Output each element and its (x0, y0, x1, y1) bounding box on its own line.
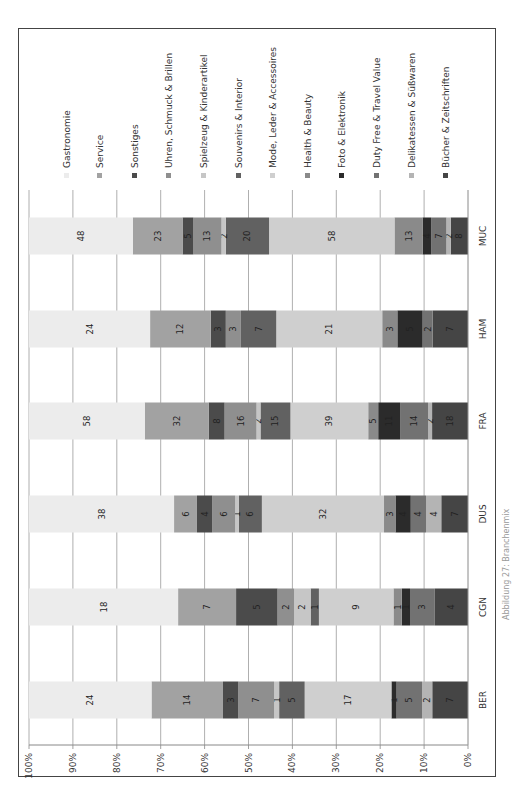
data-label: 7 (254, 326, 264, 331)
legend-swatch (270, 173, 275, 178)
gridlines (29, 190, 468, 745)
data-label: 17 (343, 695, 353, 706)
data-label: 13 (202, 231, 212, 242)
data-label: 24 (85, 324, 95, 335)
data-label: 18 (99, 602, 109, 613)
data-label: 9 (351, 604, 361, 609)
category-label: MUC (478, 226, 488, 247)
legend-swatch (236, 173, 241, 178)
data-label: 1 (393, 604, 403, 609)
data-label: 23 (153, 231, 163, 242)
legend-item: Service (95, 134, 105, 178)
y-tick-label: 30% (331, 753, 341, 773)
figure-caption: Abbildung 27: Branchenmix (502, 508, 511, 620)
legend-label: Health & Beauty (303, 93, 313, 168)
category-axis: BERCGNDUSFRAHAMMUC (478, 226, 488, 709)
data-label: 7 (445, 326, 455, 331)
data-label: 3 (385, 511, 395, 516)
legend-label: Sonstiges (130, 124, 140, 168)
legend-swatch (443, 173, 448, 178)
data-label: 4 (429, 511, 439, 516)
y-tick-label: 40% (287, 753, 297, 773)
legend-swatch (97, 173, 102, 178)
data-label: 7 (445, 697, 455, 702)
data-label: 4 (200, 511, 210, 516)
data-label: 12 (175, 324, 185, 335)
data-label: 6 (245, 511, 255, 516)
data-label: 20 (242, 231, 252, 242)
data-label: 8 (212, 418, 222, 423)
stacked-bar-chart: 7251175173142443119122571874443326164638… (0, 0, 512, 785)
legend-label: Souvenirs & Interior (234, 78, 244, 168)
data-label: 58 (327, 231, 337, 242)
category-label: FRA (478, 412, 488, 430)
data-label: 7 (251, 697, 261, 702)
legend-item: Health & Beauty (303, 93, 313, 178)
legend-label: Duty Free & Travel Value (372, 57, 382, 168)
legend-label: Mode, Leder & Accessoires (268, 47, 278, 168)
legend-label: Bücher & Zeitschriften (441, 66, 451, 168)
legend-swatch (374, 173, 379, 178)
data-label: 3 (417, 604, 427, 609)
legend-item: Gastronomie (62, 110, 72, 178)
y-tick-label: 60% (200, 753, 210, 773)
legend-swatch (409, 173, 414, 178)
data-label: 4 (446, 604, 456, 609)
data-label: 3 (385, 326, 395, 331)
y-tick-label: 20% (375, 753, 385, 773)
y-tick-label: 70% (156, 753, 166, 773)
data-label: 16 (236, 416, 246, 427)
data-label: 4 (413, 511, 423, 516)
y-tick-label: 50% (244, 753, 254, 773)
y-tick-label: 80% (112, 753, 122, 773)
data-label: 58 (82, 416, 92, 427)
category-label: HAM (478, 319, 488, 340)
data-label: 5 (287, 697, 297, 702)
legend-label: Uhren, Schmuck & Brillen (164, 53, 174, 168)
legend-item: Duty Free & Travel Value (372, 57, 382, 178)
data-label: 2 (422, 697, 432, 702)
data-label: 7 (202, 604, 212, 609)
data-label: 3 (213, 326, 223, 331)
legend-item: Mode, Leder & Accessoires (268, 47, 278, 178)
legend-label: Foto & Elektronik (337, 90, 347, 168)
data-label: 2 (281, 604, 291, 609)
legend-swatch (166, 173, 171, 178)
legend-swatch (201, 173, 206, 178)
data-label: 32 (172, 416, 182, 427)
legend-item: Souvenirs & Interior (234, 78, 244, 178)
y-tick-label: 90% (68, 753, 78, 773)
legend-label: Gastronomie (62, 110, 72, 168)
data-label: 4 (422, 233, 432, 238)
data-label: 38 (97, 509, 107, 520)
data-label: 8 (454, 233, 464, 238)
category-label: BER (478, 691, 488, 709)
data-label: 6 (181, 511, 191, 516)
legend-item: Uhren, Schmuck & Brillen (164, 53, 174, 178)
data-label: 5 (404, 697, 414, 702)
data-label: 1 (310, 604, 320, 609)
data-label: 3 (226, 697, 236, 702)
legend-label: Service (95, 134, 105, 168)
data-label: 3 (228, 326, 238, 331)
legend-item: Foto & Elektronik (337, 90, 347, 178)
legend: GastronomieServiceSonstigesUhren, Schmuc… (62, 47, 451, 178)
legend-item: Delikatessen & Süßwaren (407, 53, 417, 178)
data-label: 32 (318, 509, 328, 520)
legend-item: Spielzeug & Kinderartikel (199, 54, 209, 178)
data-label: 2 (297, 604, 307, 609)
legend-label: Delikatessen & Süßwaren (407, 53, 417, 168)
data-label: 15 (270, 416, 280, 427)
data-label: 14 (409, 416, 419, 427)
data-label: 5 (252, 604, 262, 609)
data-label: 11 (384, 416, 394, 427)
data-label: 5 (405, 326, 415, 331)
data-label: 24 (85, 695, 95, 706)
data-label: 5 (368, 418, 378, 423)
data-label: 14 (182, 695, 192, 706)
legend-swatch (132, 173, 137, 178)
data-label: 4 (398, 511, 408, 516)
data-label: 6 (219, 511, 229, 516)
data-label: 21 (324, 324, 334, 335)
data-label: 13 (404, 231, 414, 242)
